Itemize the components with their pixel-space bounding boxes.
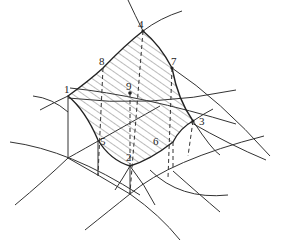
node-label-8: 8 xyxy=(99,56,105,67)
node-label-1: 1 xyxy=(64,84,70,95)
node-label-9: 9 xyxy=(126,81,132,92)
node-label-5: 5 xyxy=(100,136,106,147)
node-label-6: 6 xyxy=(153,136,159,147)
node-label-7: 7 xyxy=(171,56,177,67)
node-label-2: 2 xyxy=(126,152,132,163)
diagram-svg xyxy=(0,0,281,251)
node-label-3: 3 xyxy=(199,116,205,127)
node-label-4: 4 xyxy=(138,19,144,30)
diagram-canvas: 1 2 3 4 5 6 7 8 9 xyxy=(0,0,281,251)
